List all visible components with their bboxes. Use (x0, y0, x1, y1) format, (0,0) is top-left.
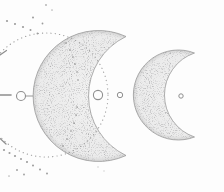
scatter-dot (76, 71, 78, 73)
axis-ring (17, 92, 26, 101)
scatter-dot (14, 23, 16, 25)
scatter-dot (8, 152, 10, 154)
center-ring-large (93, 90, 102, 99)
small-moon-body (133, 50, 194, 140)
moon-phases-illustration (0, 0, 224, 192)
scatter-dot (65, 42, 67, 44)
scatter-dot (51, 9, 53, 11)
large-moon-body (33, 31, 126, 162)
scatter-dot (46, 173, 48, 175)
scatter-dot (45, 4, 47, 6)
scatter-dot (20, 158, 22, 160)
scatter-dot (32, 17, 34, 19)
scatter-dot (74, 63, 76, 65)
scatter-dot (3, 149, 5, 151)
scatter-dot (69, 49, 71, 51)
large-crescent-moon (33, 31, 126, 162)
right-ring (179, 94, 183, 98)
scatter-dot (73, 122, 75, 124)
scatter-dot (23, 174, 25, 176)
scatter-dot (72, 56, 74, 58)
scatter-dot (62, 145, 64, 147)
small-crescent-moon (133, 50, 194, 140)
scatter-dot (8, 175, 10, 177)
scatter-dot (77, 79, 79, 81)
scatter-dot (39, 169, 41, 171)
scatter-dot (42, 23, 44, 25)
scatter-dot (22, 26, 24, 28)
scatter-dot (76, 106, 78, 108)
alignment-axis (0, 92, 35, 101)
scatter-dot (26, 161, 28, 163)
scatter-dot (6, 20, 8, 22)
scatter-dot (16, 169, 18, 171)
illustration-canvas (0, 0, 224, 192)
center-ring-small (117, 92, 122, 97)
scatter-dot (75, 114, 77, 116)
scatter-dot (14, 155, 16, 157)
scatter-dot (30, 29, 32, 31)
scatter-dot (32, 165, 34, 167)
scatter-dot (37, 33, 39, 35)
scatter-dot (70, 130, 72, 132)
scatter-dot (103, 170, 105, 172)
scatter-dot (66, 138, 68, 140)
scatter-dot (97, 166, 99, 168)
